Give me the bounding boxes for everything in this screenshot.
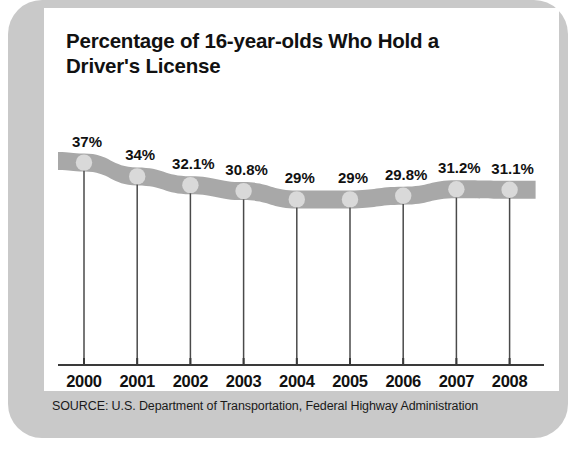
- data-point-marker[interactable]: [235, 183, 251, 199]
- source-note: SOURCE: U.S. Department of Transportatio…: [52, 399, 478, 413]
- data-point-marker[interactable]: [395, 188, 411, 204]
- chart-panel: Percentage of 16-year-olds Who Hold a Dr…: [44, 8, 559, 391]
- data-point-marker[interactable]: [342, 191, 358, 207]
- chart-figure: Percentage of 16-year-olds Who Hold a Dr…: [0, 0, 587, 454]
- data-point-label: 37%: [72, 133, 102, 150]
- x-axis-tick-label: 2000: [66, 372, 102, 391]
- data-point-label: 31.2%: [438, 159, 481, 176]
- x-axis-tick-label: 2008: [492, 372, 528, 391]
- data-point-marker[interactable]: [76, 154, 92, 170]
- data-point-label: 29%: [338, 169, 368, 186]
- data-point-label: 30.8%: [225, 161, 268, 178]
- plot-area: [44, 8, 559, 391]
- x-axis-tick-label: 2005: [332, 372, 368, 391]
- data-point-marker[interactable]: [182, 177, 198, 193]
- data-point-label: 32.1%: [172, 155, 215, 172]
- data-point-marker[interactable]: [289, 191, 305, 207]
- x-axis-tick-label: 2007: [439, 372, 475, 391]
- x-axis-tick-label: 2003: [226, 372, 262, 391]
- line-chart-svg: [44, 8, 559, 391]
- data-point-marker[interactable]: [129, 168, 145, 184]
- data-point-label: 29%: [285, 169, 315, 186]
- data-point-marker[interactable]: [448, 181, 464, 197]
- data-point-label: 29.8%: [385, 166, 428, 183]
- data-point-marker[interactable]: [501, 182, 517, 198]
- x-axis-tick-label: 2002: [173, 372, 209, 391]
- x-axis-tick-label: 2004: [279, 372, 315, 391]
- x-axis-tick-label: 2001: [119, 372, 155, 391]
- data-point-label: 31.1%: [491, 160, 534, 177]
- outer-frame: Percentage of 16-year-olds Who Hold a Dr…: [8, 0, 568, 438]
- data-point-label: 34%: [125, 146, 155, 163]
- x-axis-tick-label: 2006: [385, 372, 421, 391]
